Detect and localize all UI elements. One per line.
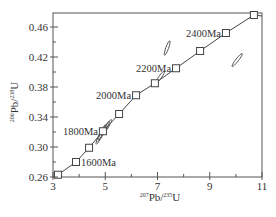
error-ellipse	[163, 40, 171, 55]
age-marker-square	[133, 92, 140, 99]
error-ellipse	[231, 53, 243, 68]
age-marker-square	[173, 65, 180, 72]
concordia-line	[54, 15, 262, 178]
age-marker-square	[151, 80, 158, 87]
y-tick-label: 0.34	[29, 111, 49, 123]
x-tick-label: 3	[50, 180, 56, 192]
age-label: 2400Ma	[186, 28, 221, 39]
age-label: 1600Ma	[81, 157, 116, 168]
y-axis-title: 206Pb/238U	[8, 82, 20, 123]
age-label: 2000Ma	[96, 90, 131, 101]
x-tick-label: 9	[207, 180, 213, 192]
x-tick-label: 5	[103, 180, 109, 192]
y-tick-label: 0.30	[29, 141, 49, 153]
y-tick-label: 0.42	[29, 51, 48, 63]
x-tick-label: 11	[257, 180, 268, 192]
y-tick-label: 0.46	[29, 21, 49, 33]
age-marker-square	[72, 159, 79, 166]
x-axis-ticks: 357911	[50, 172, 267, 192]
age-markers: 1600Ma1800Ma2000Ma2200Ma2400Ma	[54, 12, 257, 179]
y-tick-label: 0.38	[29, 81, 49, 93]
age-marker-square	[116, 111, 123, 118]
y-tick-label: 0.26	[29, 171, 49, 183]
x-axis-title: 207Pb/235U	[140, 191, 181, 203]
age-label: 1800Ma	[63, 126, 98, 137]
concordia-curve	[54, 15, 262, 178]
age-marker-square	[86, 144, 93, 151]
age-label: 2200Ma	[136, 63, 171, 74]
age-marker-square	[99, 128, 106, 135]
concordia-chart: 1600Ma1800Ma2000Ma2200Ma2400Ma 357911 0.…	[0, 0, 276, 217]
age-marker-square	[197, 48, 204, 55]
age-marker-square	[250, 12, 257, 19]
age-marker-square	[222, 30, 229, 37]
y-axis-ticks: 0.260.300.340.380.420.46	[29, 21, 58, 183]
